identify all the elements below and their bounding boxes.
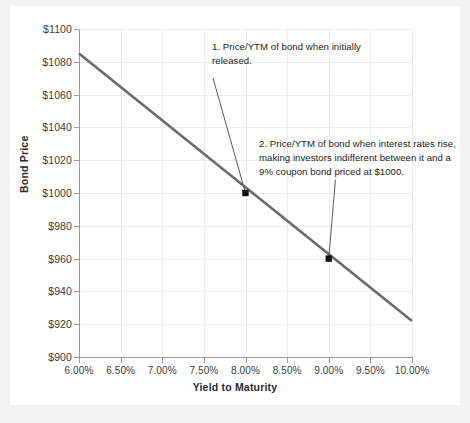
point-initial-issue — [242, 190, 248, 196]
annotation-leader-line — [329, 180, 336, 259]
chart-figure: Bond Price Yield to Maturity $900$920$94… — [0, 0, 470, 423]
annotation-rate-rise: 2. Price/YTM of bond when interest rates… — [259, 137, 464, 180]
annotation-initial-issue: 1. Price/YTM of bond when initially rele… — [212, 40, 372, 68]
point-rate-rise — [326, 255, 332, 261]
series-line — [79, 54, 412, 321]
